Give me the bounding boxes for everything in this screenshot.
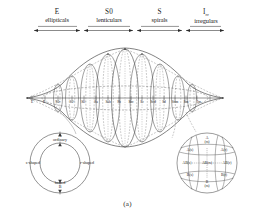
class-name-s: spirals [137, 17, 182, 24]
class-label-e: E ellipticals [33, 9, 81, 23]
cell-a-s: A(s) [180, 149, 200, 153]
axis-tick-8: Sbc [128, 100, 133, 104]
class-name-e: ellipticals [33, 17, 81, 24]
axis-tick-9: Sc [140, 100, 144, 104]
axis-tick-6: Sab [105, 100, 110, 104]
axis-tick-11: Sd [162, 100, 166, 104]
classification-volume [26, 48, 224, 147]
cell-a-rs: A (rs) [197, 137, 217, 145]
left-inset-top-label: A ordinary [40, 134, 80, 142]
cell-b-r: B(r) [214, 174, 234, 178]
axis-tick-3: S0° [69, 100, 74, 104]
axis-tick-4: S0+ [81, 100, 87, 104]
axis-tick-7: Sb [117, 100, 121, 104]
axis-tick-10: Scd [150, 100, 155, 104]
left-inset-top-name: ordinary [40, 138, 80, 142]
class-name-irr: irregulars [185, 18, 227, 25]
cell-b-rs: B (rs) [197, 181, 217, 189]
class-label-irr: Irr irregulars [185, 9, 227, 25]
figure-caption: (a) [0, 200, 255, 208]
class-name-s0: lenticulars [84, 17, 134, 24]
cell-a-r: A(r) [214, 149, 234, 153]
axis-tick-0: E [31, 100, 33, 104]
axis-tick-5: Sa [94, 100, 98, 104]
left-inset-bottom-code: B [40, 185, 80, 189]
cell-ab-r: AB(r) [216, 162, 238, 166]
class-label-s0: S0 lenticulars [84, 9, 134, 23]
axis-tick-12: Sdm [172, 100, 178, 104]
axis-tick-13: Sm [184, 100, 189, 104]
axis-tick-1: E+ [43, 100, 47, 104]
left-inset-right-label: r-shaped [72, 161, 102, 165]
axis-tick-2: S0- [56, 100, 61, 104]
axis-tick-14: Im [197, 100, 201, 104]
left-inset-bottom-label: barred B [40, 181, 80, 189]
cell-a-rs-line2: (rs) [204, 140, 209, 144]
cell-b-s: B(s) [180, 174, 200, 178]
cell-b-rs-line2: (rs) [204, 184, 209, 188]
class-label-s: S spirals [137, 9, 182, 23]
left-inset-left-label: s-shaped [18, 161, 48, 165]
